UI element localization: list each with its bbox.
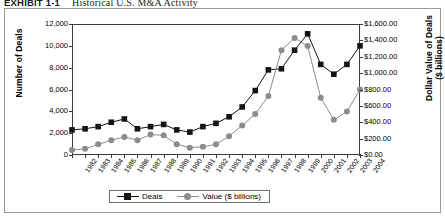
- x-axis-tick-label: 1996: [267, 157, 282, 174]
- data-point: [95, 124, 101, 130]
- data-point: [148, 124, 154, 130]
- y-axis-right-tick-label: $800.00: [364, 86, 391, 94]
- data-point: [69, 147, 75, 153]
- x-axis-tick-label: 1982: [84, 157, 99, 174]
- data-point: [213, 121, 219, 127]
- y-axis-right-tick-label: $200.00: [364, 135, 391, 143]
- data-point: [252, 88, 258, 94]
- x-axis-tick-label: 1987: [149, 157, 164, 174]
- y-axis-right-tick-mark: [359, 106, 363, 107]
- y-axis-right-tick-label: $600.00: [364, 102, 391, 110]
- y-axis-right-title-line1: Dollar Value of Deals: [424, 15, 434, 101]
- data-point: [357, 43, 363, 49]
- y-axis-right-title: Dollar Value of Deals ($ billions): [424, 0, 444, 118]
- data-point: [148, 132, 154, 138]
- data-point: [331, 71, 337, 77]
- x-axis-tick-label: 2002: [345, 157, 360, 174]
- y-axis-right-tick-mark: [359, 24, 363, 25]
- data-point: [239, 123, 245, 129]
- data-point: [187, 145, 193, 151]
- x-axis-tick-label: 1985: [123, 157, 138, 174]
- data-point: [161, 122, 167, 128]
- y-axis-right-title-line2: ($ billions): [434, 36, 444, 80]
- data-point: [331, 117, 337, 123]
- y-axis-right-tick-mark: [359, 139, 363, 140]
- data-point: [213, 141, 219, 147]
- data-point: [318, 62, 324, 68]
- data-point: [200, 144, 206, 150]
- data-point: [226, 133, 232, 139]
- y-axis-left-tick-mark: [69, 111, 73, 112]
- y-axis-right-tick-label: $1,400.00: [364, 36, 397, 44]
- series-layer: [72, 24, 360, 155]
- x-axis-tick-label: 1993: [228, 157, 243, 174]
- x-axis-tick-label: 1988: [162, 157, 177, 174]
- x-axis-tick-mark: [360, 154, 361, 158]
- x-axis-tick-label: 1994: [241, 157, 256, 174]
- legend-marker: [184, 193, 191, 200]
- data-point: [108, 137, 114, 143]
- y-axis-right-tick-label: $1,600.00: [364, 20, 397, 28]
- data-point: [135, 126, 141, 132]
- data-point: [239, 104, 245, 110]
- data-point: [121, 134, 127, 140]
- data-point: [292, 35, 298, 41]
- x-axis-tick-label: 1999: [306, 157, 321, 174]
- y-axis-right-tick-label: $400.00: [364, 118, 391, 126]
- plot-area: [72, 24, 360, 155]
- y-axis-left-tick-mark: [69, 68, 73, 69]
- chart-legend: DealsValue ($ billions): [109, 190, 270, 203]
- legend-swatch-deals-icon: [117, 192, 139, 201]
- x-axis-tick-label: 1983: [97, 157, 112, 174]
- data-point: [252, 111, 258, 117]
- exhibit-title-text: Historical U.S. M&A Activity: [72, 0, 198, 8]
- legend-swatch-value-icon: [177, 192, 199, 201]
- y-axis-left-tick-label: 8,000: [22, 64, 68, 72]
- legend-item-value[interactable]: Value ($ billions): [177, 192, 261, 201]
- legend-marker: [124, 193, 131, 200]
- data-point: [279, 66, 285, 72]
- y-axis-right-tick-label: $1,000.00: [364, 69, 397, 77]
- y-axis-right-tick-mark: [359, 122, 363, 123]
- x-axis-tick-label: 2000: [319, 157, 334, 174]
- data-point: [134, 137, 140, 143]
- y-axis-right-tick-label: $1,200.00: [364, 53, 397, 61]
- data-point: [200, 124, 206, 130]
- x-axis-tick-label: 1986: [136, 157, 151, 174]
- data-point: [82, 126, 88, 132]
- legend-item-deals[interactable]: Deals: [117, 192, 162, 201]
- data-point: [292, 47, 298, 53]
- x-axis-tick-label: 1995: [254, 157, 269, 174]
- data-point: [305, 31, 311, 37]
- x-axis-tick-label: 1998: [293, 157, 308, 174]
- y-axis-left-tick-label: 2,000: [22, 129, 68, 137]
- data-point: [344, 62, 350, 68]
- x-axis-tick-label: 1989: [175, 157, 190, 174]
- y-axis-left-ticks: 12,00010,0008,0006,0004,0002,0000: [22, 0, 68, 217]
- y-axis-right-ticks: $1,600.00$1,400.00$1,200.00$1,000.00$800…: [364, 0, 416, 217]
- data-point: [318, 95, 324, 101]
- y-axis-left-tick-label: 10,000: [22, 42, 68, 50]
- x-axis-tick-label: 1990: [188, 157, 203, 174]
- data-point: [174, 141, 180, 147]
- y-axis-left-tick-label: 0: [22, 151, 68, 159]
- data-point: [265, 93, 271, 99]
- y-axis-left-tick-mark: [69, 133, 73, 134]
- y-axis-right-tick-mark: [359, 90, 363, 91]
- y-axis-left-tick-mark: [69, 46, 73, 47]
- x-axis-tick-label: 1997: [280, 157, 295, 174]
- data-point: [122, 116, 128, 122]
- x-axis-tick-label: 2001: [332, 157, 347, 174]
- data-point: [344, 109, 350, 115]
- data-point: [82, 146, 88, 152]
- y-axis-right-tick-mark: [359, 57, 363, 58]
- y-axis-right-tick-mark: [359, 73, 363, 74]
- x-axis-tick-label: 1992: [215, 157, 230, 174]
- legend-label: Deals: [142, 192, 162, 201]
- x-axis-tick-label: 1984: [110, 157, 125, 174]
- y-axis-left-tick-label: 6,000: [22, 86, 68, 94]
- y-axis-left-tick-label: 4,000: [22, 107, 68, 115]
- series-deals: [69, 31, 363, 135]
- y-axis-left-tick-mark: [69, 24, 73, 25]
- series-value-billions: [69, 35, 363, 153]
